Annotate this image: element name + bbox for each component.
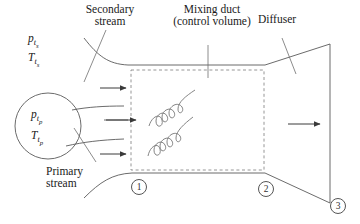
primary-stream-label-line1: Primary	[46, 165, 83, 177]
diffuser-label-text: Diffuser	[258, 13, 296, 25]
mixing-duct-label-line1: Mixing duct	[184, 3, 241, 15]
diffuser-lower-wall	[265, 173, 330, 203]
duct-upper-wall	[84, 38, 265, 65]
secondary-stream-leader-line	[84, 30, 106, 82]
control-volume-dashed-box	[131, 70, 264, 170]
secondary-total-temperature-sub2: s	[37, 61, 40, 68]
secondary-total-temperature-label: Tts	[28, 51, 39, 68]
mixing-duct-label: Mixing duct (control volume)	[152, 3, 272, 28]
secondary-stream-label-line1: Secondary	[86, 3, 135, 15]
station-marker-2-text: 2	[264, 184, 269, 194]
station-marker-3-text: 3	[336, 201, 341, 211]
primary-total-temperature-label: Ttp	[31, 129, 43, 146]
ejector-schematic-drawing	[0, 0, 360, 224]
station-marker-1-text: 1	[137, 182, 142, 192]
primary-stream-leader-line	[74, 128, 96, 162]
primary-total-pressure-label: ptp	[31, 108, 42, 125]
primary-stream-label: Primary stream	[46, 165, 110, 190]
mixing-vortex-upper	[148, 117, 193, 156]
diffuser-upper-wall	[265, 44, 330, 65]
station-marker-1: 1	[131, 179, 147, 195]
station-marker-2: 2	[258, 181, 274, 197]
secondary-total-pressure-sub2: s	[36, 42, 39, 49]
diffuser-label: Diffuser	[258, 13, 338, 25]
mixing-duct-label-line2: (control volume)	[173, 15, 251, 27]
primary-total-pressure-sub2: p	[39, 118, 42, 125]
primary-nozzle-upper-wall	[72, 106, 124, 110]
secondary-stream-label: Secondary stream	[64, 3, 156, 28]
secondary-total-pressure-label: pts	[28, 32, 39, 49]
primary-total-temperature-sub2: p	[40, 139, 43, 146]
duct-lower-wall	[84, 173, 265, 198]
primary-nozzle-chamber	[15, 93, 81, 159]
primary-stream-label-line2: stream	[46, 177, 77, 189]
secondary-stream-label-line2: stream	[95, 15, 126, 27]
station-marker-3: 3	[330, 198, 346, 214]
